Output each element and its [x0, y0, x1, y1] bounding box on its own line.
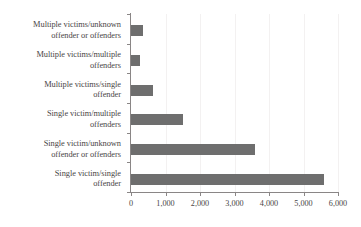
x-axis-tick-1000 [166, 192, 167, 196]
x-axis-tick-5000 [304, 192, 305, 196]
x-axis-tick-4000 [269, 192, 270, 196]
y-axis-tick-4 [127, 133, 131, 134]
bar-2[interactable] [131, 85, 153, 96]
y-axis-tick-1 [127, 44, 131, 45]
bar-4[interactable] [131, 144, 255, 155]
y-axis-category-labels: Multiple victims/unknown offender or off… [0, 14, 126, 192]
x-axis-tick-label-4000: 4,000 [260, 199, 278, 209]
x-axis-tick-label-3000: 3,000 [225, 199, 243, 209]
x-axis-tick-2000 [200, 192, 201, 196]
y-axis-label-5: Single victim/single offender [0, 169, 121, 190]
x-axis-tick-label-2000: 2,000 [191, 199, 209, 209]
x-axis-tick-3000 [235, 192, 236, 196]
gridline-6000 [338, 14, 339, 192]
gridline-5000 [304, 14, 305, 192]
x-axis-tick-6000 [338, 192, 339, 196]
y-axis-label-2: Multiple victims/single offender [0, 80, 121, 101]
y-axis-label-3: Single victim/multiple offenders [0, 109, 121, 130]
x-axis-tick-label-5000: 5,000 [294, 199, 312, 209]
gridline-3000 [235, 14, 236, 192]
bar-chart: Multiple victims/unknown offender or off… [0, 0, 361, 227]
y-axis-label-4: Single victim/unknown offender or offend… [0, 139, 121, 160]
bar-1[interactable] [131, 55, 140, 66]
x-axis-tick-label-1000: 1,000 [156, 199, 174, 209]
y-axis-tick-2 [127, 73, 131, 74]
y-axis-label-1: Multiple victims/multiple offenders [0, 50, 121, 71]
y-axis-tick-0 [127, 14, 131, 15]
bar-5[interactable] [131, 174, 324, 185]
x-axis-tick-0 [131, 192, 132, 196]
gridline-1000 [166, 14, 167, 192]
plot-area [131, 14, 338, 192]
bar-3[interactable] [131, 114, 183, 125]
bar-0[interactable] [131, 25, 143, 36]
y-axis-label-0: Multiple victims/unknown offender or off… [0, 20, 121, 41]
x-axis-tick-label-0: 0 [129, 199, 133, 209]
x-axis-tick-label-6000: 6,000 [329, 199, 347, 209]
y-axis-tick-3 [127, 103, 131, 104]
gridline-2000 [200, 14, 201, 192]
gridline-4000 [269, 14, 270, 192]
y-axis-tick-5 [127, 162, 131, 163]
